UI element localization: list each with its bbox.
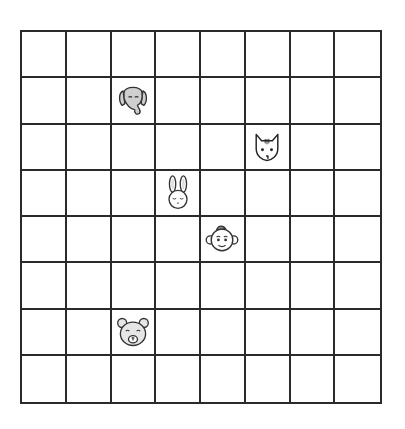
rabbit-icon[interactable] [160,175,196,211]
board-cell[interactable] [67,263,112,309]
board-cell[interactable] [112,310,157,356]
board-cell[interactable] [112,78,157,124]
board-cell[interactable] [246,263,291,309]
board-cell[interactable] [246,356,291,402]
game-board [20,30,382,404]
board-cell[interactable] [22,78,67,124]
board-cell[interactable] [156,125,201,171]
board-cell[interactable] [246,125,291,171]
board-cell[interactable] [335,78,380,124]
board-cell[interactable] [201,32,246,78]
board-cell[interactable] [67,32,112,78]
board-cell[interactable] [156,263,201,309]
board-cell[interactable] [156,32,201,78]
board-cell[interactable] [112,171,157,217]
board-cell[interactable] [156,217,201,263]
board-cell[interactable] [156,171,201,217]
elephant-icon[interactable] [115,82,151,118]
board-cell[interactable] [335,217,380,263]
board-cell[interactable] [291,310,336,356]
board-cell[interactable] [67,125,112,171]
board-cell[interactable] [22,125,67,171]
board-cell[interactable] [246,78,291,124]
board-cell[interactable] [201,356,246,402]
board-cell[interactable] [22,217,67,263]
board-cell[interactable] [291,78,336,124]
board-cell[interactable] [201,125,246,171]
board-cell[interactable] [156,356,201,402]
board-cell[interactable] [67,310,112,356]
board-cell[interactable] [112,356,157,402]
board-cell[interactable] [335,125,380,171]
board-cell[interactable] [112,125,157,171]
board-cell[interactable] [22,356,67,402]
board-cell[interactable] [246,171,291,217]
board-cell[interactable] [22,32,67,78]
board-cell[interactable] [112,263,157,309]
board-cell[interactable] [67,217,112,263]
board-cell[interactable] [201,217,246,263]
board-cell[interactable] [156,78,201,124]
board-cell[interactable] [335,310,380,356]
board-cell[interactable] [335,263,380,309]
board-cell[interactable] [201,263,246,309]
board-cell[interactable] [112,32,157,78]
board-cell[interactable] [67,171,112,217]
board-cell[interactable] [22,263,67,309]
board-cell[interactable] [335,32,380,78]
board-cell[interactable] [246,217,291,263]
board-cell[interactable] [291,263,336,309]
board-cell[interactable] [201,310,246,356]
board-cell[interactable] [246,310,291,356]
board-cell[interactable] [291,217,336,263]
cat-icon[interactable] [249,129,285,165]
board-cell[interactable] [291,356,336,402]
monkey-icon[interactable] [204,221,240,257]
board-cell[interactable] [22,171,67,217]
board-cell[interactable] [201,171,246,217]
board-cell[interactable] [22,310,67,356]
board-cell[interactable] [291,171,336,217]
board-cell[interactable] [112,217,157,263]
board-cell[interactable] [335,171,380,217]
board-cell[interactable] [67,356,112,402]
board-cell[interactable] [67,78,112,124]
board-cell[interactable] [201,78,246,124]
board-cell[interactable] [335,356,380,402]
board-cell[interactable] [156,310,201,356]
board-cell[interactable] [291,32,336,78]
board-cell[interactable] [291,125,336,171]
bear-icon[interactable] [115,314,151,350]
board-cell[interactable] [246,32,291,78]
